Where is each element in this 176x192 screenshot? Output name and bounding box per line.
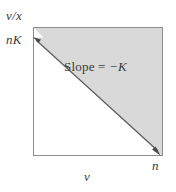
slope-annotation: Slope = −K bbox=[64, 60, 127, 73]
plot-frame bbox=[33, 27, 163, 156]
y-axis-tick-label-nk: nK bbox=[6, 33, 22, 46]
x-axis-label: ν bbox=[84, 170, 90, 183]
slope-annotation-value: −K bbox=[109, 59, 127, 74]
x-axis-tick-label-n: n bbox=[152, 159, 159, 172]
slope-annotation-prefix: Slope = bbox=[64, 59, 109, 74]
scatchard-plot-figure: ν/x nK ν n Slope = −K bbox=[0, 0, 176, 192]
y-axis-label: ν/x bbox=[6, 9, 22, 22]
